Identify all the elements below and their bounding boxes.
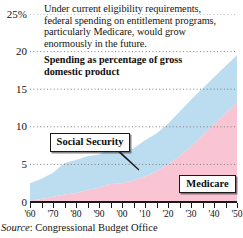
x-tick-2045 <box>226 203 227 208</box>
y-tick-label-20: 20 <box>0 46 27 57</box>
x-tick-1990 <box>99 203 100 208</box>
x-tick-1970 <box>53 203 54 208</box>
medicare-callout: Medicare <box>179 175 236 193</box>
x-tick-1985 <box>88 203 89 208</box>
x-tick-label-1990: '90 <box>88 209 110 219</box>
source-value: Congressional Budget Office <box>35 222 157 233</box>
x-tick-2040 <box>214 203 215 208</box>
x-tick-2035 <box>203 203 204 208</box>
x-tick-2010 <box>145 203 146 208</box>
x-tick-label-2020: '20 <box>157 209 179 219</box>
x-tick-2025 <box>180 203 181 208</box>
source-line: Source: Congressional Budget Office <box>1 222 158 234</box>
x-tick-1960 <box>30 203 31 208</box>
x-tick-label-2040: '40 <box>203 209 225 219</box>
y-tick-label-5: 5 <box>0 159 27 170</box>
x-tick-1975 <box>65 203 66 208</box>
x-tick-1965 <box>42 203 43 208</box>
x-tick-2015 <box>157 203 158 208</box>
y-tick-label-0: 0 <box>0 197 27 208</box>
x-tick-2050 <box>237 203 238 208</box>
x-tick-2000 <box>122 203 123 208</box>
y-tick-label-25: 25% <box>0 9 27 20</box>
x-tick-label-2050: '50 <box>226 209 243 219</box>
chart-figure: Under current eligibility requirements, … <box>0 0 243 238</box>
y-tick-label-15: 15 <box>0 84 27 95</box>
x-tick-2020 <box>168 203 169 208</box>
x-tick-label-2010: '10 <box>134 209 156 219</box>
x-tick-1995 <box>111 203 112 208</box>
x-tick-label-1960: '60 <box>19 209 41 219</box>
social-security-callout: Social Security <box>50 133 130 152</box>
x-tick-2005 <box>134 203 135 208</box>
x-tick-2030 <box>191 203 192 208</box>
x-tick-label-2000: '00 <box>111 209 133 219</box>
x-tick-label-1980: '80 <box>65 209 87 219</box>
y-tick-label-10: 10 <box>0 121 27 132</box>
x-tick-label-1970: '70 <box>42 209 64 219</box>
x-tick-label-2030: '30 <box>180 209 202 219</box>
source-label: Source <box>1 222 30 233</box>
x-tick-1980 <box>76 203 77 208</box>
